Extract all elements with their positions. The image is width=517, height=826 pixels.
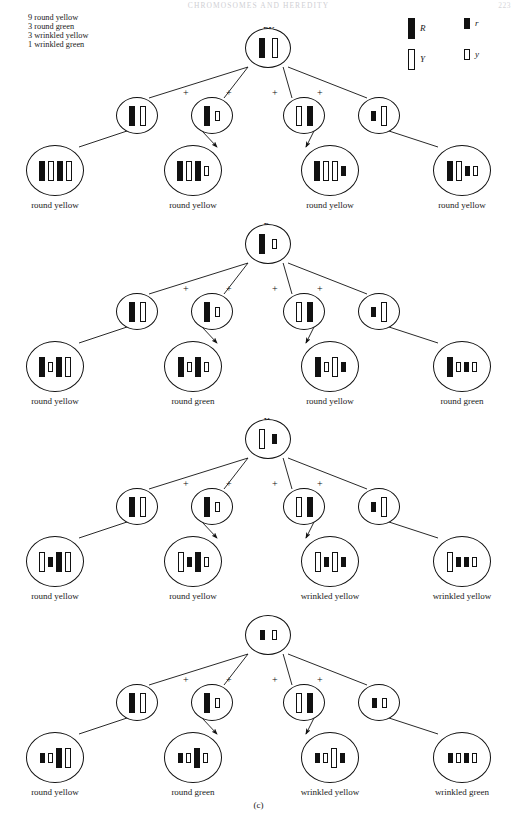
chromosome-bar-dark-tall [56, 357, 62, 377]
chromosome-bar-light-short [215, 111, 220, 121]
chromosome-bar-light-tall [296, 693, 302, 713]
chromosome-bar-dark-short [340, 753, 345, 763]
offspring-chromosomes [178, 552, 209, 572]
gamete-cell-RY [116, 488, 158, 525]
chromosome-bar-dark-short [178, 753, 183, 763]
offspring-cell [433, 732, 491, 783]
gamete-cell-Ry [191, 684, 233, 721]
chromosome-bar-light-tall [66, 161, 72, 181]
chromosome-bar-light-short [456, 362, 461, 372]
chromosome-bar-dark-tall [195, 161, 201, 181]
gamete-chromosomes [296, 497, 313, 517]
chromosome-bar-light-short [187, 362, 192, 372]
gamete-cell-Yr [283, 488, 325, 525]
gamete-chromosomes [129, 693, 146, 713]
plus-sign: + [226, 88, 232, 98]
gamete-cell-Yr [283, 97, 325, 134]
chromosome-bar-dark-short [272, 434, 277, 444]
chromosome-bar-light-short [324, 362, 329, 372]
chromosome-bar-light-tall [331, 748, 337, 768]
chromosome-bar-light-short [472, 557, 477, 567]
offspring-cell [164, 732, 222, 783]
chromosome-bar-light-short [204, 166, 209, 176]
parent-chromosomes [259, 429, 277, 449]
chromosome-bar-dark-tall [194, 748, 200, 768]
chromosome-bar-dark-tall [307, 693, 313, 713]
gamete-cell-ry [358, 684, 400, 721]
offspring-phenotype-label: round yellow [138, 591, 248, 601]
offspring-cell [301, 732, 359, 783]
gamete-cell-ry [358, 293, 400, 330]
chromosome-bar-light-tall [323, 161, 329, 181]
chromosome-bar-dark-short [465, 166, 470, 176]
offspring-phenotype-label: round green [138, 787, 248, 797]
parent-chromosomes [259, 234, 277, 254]
gamete-cell-RY [116, 97, 158, 134]
offspring-phenotype-label: wrinkled yellow [275, 787, 385, 797]
chromosome-bar-light-tall [447, 552, 453, 572]
chromosome-bar-dark-tall [204, 106, 210, 126]
offspring-phenotype-label: round yellow [0, 787, 110, 797]
chromosome-bar-dark-short [48, 557, 53, 567]
chromosome-bar-light-tall [296, 106, 302, 126]
gamete-cell-ry [358, 488, 400, 525]
offspring-phenotype-label: wrinkled green [407, 787, 517, 797]
chromosome-bar-dark-tall [195, 357, 201, 377]
chromosome-bar-dark-tall [307, 302, 313, 322]
chromosome-bar-light-tall [332, 161, 338, 181]
chromosome-bar-dark-tall [129, 693, 135, 713]
chromosome-bar-light-short [472, 753, 477, 763]
page-folio: 223 [498, 1, 511, 10]
chromosome-bar-dark-short [371, 307, 376, 317]
chromosome-bar-light-tall [332, 552, 338, 572]
chromosome-bar-dark-tall [447, 357, 453, 377]
chromosome-bar-light-tall [296, 497, 302, 517]
chromosome-bar-dark-tall [307, 497, 313, 517]
chromosome-bar-dark-tall [307, 106, 313, 126]
chromosome-bar-dark-short [448, 753, 453, 763]
chromosome-bar-light-short [215, 698, 220, 708]
plus-sign: + [226, 479, 232, 489]
offspring-cell [301, 145, 359, 196]
offspring-cell [164, 145, 222, 196]
chromosome-bar-dark-short [40, 753, 45, 763]
chromosome-bar-dark-tall [129, 497, 135, 517]
offspring-phenotype-label: round green [138, 396, 248, 406]
chromosome-bar-light-short [382, 698, 387, 708]
chromosome-bar-dark-tall [39, 161, 45, 181]
chromosome-bar-dark-tall [259, 38, 265, 58]
plus-sign: + [317, 284, 323, 294]
chromosome-bar-dark-tall [39, 357, 45, 377]
gamete-chromosomes [371, 106, 387, 126]
offspring-phenotype-label: wrinkled yellow [275, 591, 385, 601]
chromosome-bar-dark-tall [204, 497, 210, 517]
chromosome-bar-dark-tall [447, 161, 453, 181]
chromosome-bar-light-short [48, 362, 53, 372]
chromosome-bar-dark-tall [195, 552, 201, 572]
offspring-chromosomes [178, 357, 209, 377]
plus-sign: + [183, 284, 189, 294]
plus-sign: + [183, 88, 189, 98]
cross-row-RY: RY++++round yellowround yellowround yell… [0, 18, 517, 214]
chromosome-bar-light-short [472, 362, 477, 372]
chromosome-bar-dark-short [341, 557, 346, 567]
parent-cell [245, 224, 291, 264]
plus-sign: + [317, 479, 323, 489]
chromosome-bar-light-tall [140, 106, 146, 126]
figure-page: CHROMOSOMES AND HEREDITY 223 9 round yel… [0, 0, 517, 826]
offspring-cell [433, 536, 491, 587]
plus-sign: + [317, 88, 323, 98]
parent-cell [245, 419, 291, 459]
parent-cell [245, 28, 291, 68]
gamete-chromosomes [296, 693, 313, 713]
plus-sign: + [272, 479, 278, 489]
chromosome-bar-light-short [215, 307, 220, 317]
chromosome-bar-light-tall [140, 497, 146, 517]
offspring-chromosomes [448, 753, 477, 763]
chromosome-bar-light-tall [178, 552, 184, 572]
chromosome-bar-dark-short [341, 362, 346, 372]
chromosome-bar-dark-tall [129, 106, 135, 126]
chromosome-bar-dark-short [464, 753, 469, 763]
chromosome-bar-light-short [204, 362, 209, 372]
chromosome-bar-light-short [272, 239, 277, 249]
